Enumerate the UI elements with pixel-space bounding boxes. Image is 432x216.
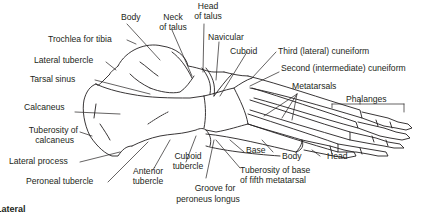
label-peroneal-tubercle: Peroneal tubercle [26, 177, 93, 187]
label-metatarsals: Metatarsals [292, 82, 336, 92]
label-tuberosity-fifth-2: of fifth metatarsal [240, 176, 306, 186]
label-groove-2: peroneus longus [168, 195, 248, 205]
label-calcaneus: Calcaneus [24, 103, 65, 113]
label-cuboid: Cuboid [230, 47, 257, 57]
metatarsal-2 [252, 88, 358, 128]
label-body-metatarsal: Body [282, 152, 302, 162]
label-navicular: Navicular [208, 33, 244, 43]
phalanges [362, 112, 412, 130]
label-cuboid-tubercle-2: tubercle [166, 162, 210, 172]
label-tuberosity-calcaneus-2: calcaneus [4, 136, 74, 146]
label-lateral-process: Lateral process [9, 157, 68, 167]
label-third-cuneiform: Third (lateral) cuneiform [278, 47, 369, 57]
label-phalanges: Phalanges [346, 95, 387, 105]
foot-lateral-diagram: Body Neck of talus Head of talus Trochle… [0, 0, 432, 216]
cuboid-outline [204, 88, 248, 132]
label-head-talus-2: of talus [186, 12, 230, 22]
label-second-cuneiform: Second (intermediate) cuneiform [281, 64, 406, 74]
label-anterior-tubercle-2: tubercle [126, 177, 170, 187]
label-tarsal-sinus: Tarsal sinus [30, 75, 75, 85]
label-trochlea: Trochlea for tibia [48, 35, 112, 45]
view-caption: Lateral [0, 204, 26, 214]
label-head-metatarsal: Head [327, 152, 348, 162]
calcaneus-outline [83, 84, 132, 156]
label-neck-talus-2: of talus [152, 23, 194, 33]
label-body-talus: Body [121, 13, 141, 23]
label-base: Base [246, 146, 266, 156]
talus-outline [118, 45, 224, 72]
label-lateral-tubercle: Lateral tubercle [34, 56, 93, 66]
